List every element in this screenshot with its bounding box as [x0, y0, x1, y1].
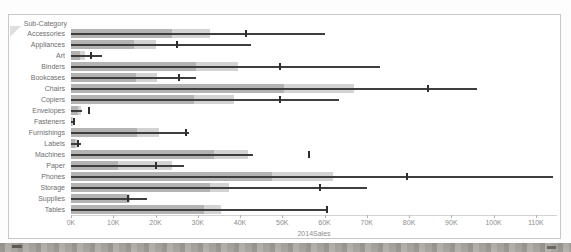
reference-tick[interactable]: [308, 151, 310, 158]
whisker-line[interactable]: [71, 143, 81, 145]
chart-row-paper: Paper: [9, 160, 557, 171]
category-label[interactable]: Chairs: [9, 83, 71, 94]
row-plot-area: [71, 72, 557, 83]
chart-row-bookcases: Bookcases: [9, 72, 557, 83]
chart-row-phones: Phones: [9, 171, 557, 182]
reference-tick[interactable]: [406, 173, 408, 180]
row-plot-area: [71, 171, 557, 182]
x-tick-mark: [156, 215, 157, 218]
reference-tick[interactable]: [178, 74, 180, 81]
whisker-line[interactable]: [71, 88, 477, 90]
reference-tick[interactable]: [155, 162, 157, 169]
chart-row-furnishings: Furnishings: [9, 127, 557, 138]
chart-row-appliances: Appliances: [9, 39, 557, 50]
chart-row-binders: Binders: [9, 61, 557, 72]
reference-tick[interactable]: [127, 195, 129, 202]
whisker-line[interactable]: [71, 66, 380, 68]
category-label[interactable]: Envelopes: [9, 105, 71, 116]
category-label[interactable]: Appliances: [9, 39, 71, 50]
x-tick-label: 60K: [318, 219, 330, 226]
category-label[interactable]: Supplies: [9, 193, 71, 204]
category-label[interactable]: Fasteners: [9, 116, 71, 127]
chart-row-machines: Machines: [9, 149, 557, 160]
plot-rows: AccessoriesAppliancesArtBindersBookcases…: [9, 28, 557, 215]
row-plot-area: [71, 94, 557, 105]
reference-tick[interactable]: [326, 206, 328, 213]
strip-artifact-right: [547, 246, 556, 249]
category-label[interactable]: Binders: [9, 61, 71, 72]
chart-row-storage: Storage: [9, 182, 557, 193]
reference-tick[interactable]: [245, 30, 247, 37]
chart-row-accessories: Accessories: [9, 28, 557, 39]
reference-tick[interactable]: [73, 118, 75, 125]
x-tick-mark: [451, 215, 452, 218]
chart-row-labels: Labels: [9, 138, 557, 149]
x-tick-mark: [113, 215, 114, 218]
chart-row-fasteners: Fasteners: [9, 116, 557, 127]
x-tick-mark: [325, 215, 326, 218]
column-header-label: Sub-Category: [9, 20, 67, 27]
whisker-line[interactable]: [71, 132, 189, 134]
row-plot-area: [71, 116, 557, 127]
category-label[interactable]: Furnishings: [9, 127, 71, 138]
x-axis-line: [71, 215, 557, 216]
whisker-line[interactable]: [71, 33, 325, 35]
x-tick-mark: [536, 215, 537, 218]
whisker-line[interactable]: [71, 110, 82, 112]
row-plot-area: [71, 182, 557, 193]
row-plot-area: [71, 61, 557, 72]
chart-row-supplies: Supplies: [9, 193, 557, 204]
reference-tick[interactable]: [427, 85, 429, 92]
reference-tick[interactable]: [279, 63, 281, 70]
whisker-line[interactable]: [71, 176, 553, 178]
whisker-line[interactable]: [71, 165, 184, 167]
category-label[interactable]: Storage: [9, 182, 71, 193]
reference-tick[interactable]: [279, 96, 281, 103]
whisker-line[interactable]: [71, 44, 251, 46]
row-plot-area: [71, 160, 557, 171]
category-label[interactable]: Labels: [9, 138, 71, 149]
reference-tick[interactable]: [176, 41, 178, 48]
row-plot-area: [71, 83, 557, 94]
row-plot-area: [71, 138, 557, 149]
x-tick-mark: [409, 215, 410, 218]
reference-tick[interactable]: [88, 107, 90, 114]
reference-tick[interactable]: [77, 140, 79, 147]
whisker-line[interactable]: [71, 55, 102, 57]
chart-row-tables: Tables: [9, 204, 557, 215]
x-tick-label: 110K: [528, 219, 544, 226]
chart-row-envelopes: Envelopes: [9, 105, 557, 116]
x-tick-label: 40K: [234, 219, 246, 226]
whisker-line[interactable]: [71, 187, 367, 189]
whisker-line[interactable]: [71, 99, 339, 101]
chart-row-chairs: Chairs: [9, 83, 557, 94]
reference-tick[interactable]: [185, 129, 187, 136]
x-tick-mark: [367, 215, 368, 218]
whisker-line[interactable]: [71, 198, 147, 200]
row-plot-area: [71, 28, 557, 39]
x-tick-label: 10K: [107, 219, 119, 226]
chart-row-copiers: Copiers: [9, 94, 557, 105]
row-plot-area: [71, 149, 557, 160]
x-tick-mark: [240, 215, 241, 218]
row-plot-area: [71, 204, 557, 215]
reference-tick[interactable]: [90, 52, 92, 59]
x-tick-mark: [71, 215, 72, 218]
category-label[interactable]: Paper: [9, 160, 71, 171]
category-label[interactable]: Machines: [9, 149, 71, 160]
row-plot-area: [71, 50, 557, 61]
reference-tick[interactable]: [319, 184, 321, 191]
x-tick-label: 30K: [192, 219, 204, 226]
bottom-strip: [0, 243, 571, 252]
category-label[interactable]: Accessories: [9, 28, 71, 39]
row-plot-area: [71, 105, 557, 116]
category-label[interactable]: Art: [9, 50, 71, 61]
category-label[interactable]: Copiers: [9, 94, 71, 105]
x-tick-mark: [198, 215, 199, 218]
category-label[interactable]: Phones: [9, 171, 71, 182]
category-label[interactable]: Tables: [9, 204, 71, 215]
strip-artifact-left: [12, 245, 22, 248]
category-label[interactable]: Bookcases: [9, 72, 71, 83]
whisker-line[interactable]: [71, 154, 253, 156]
whisker-line[interactable]: [71, 209, 327, 211]
